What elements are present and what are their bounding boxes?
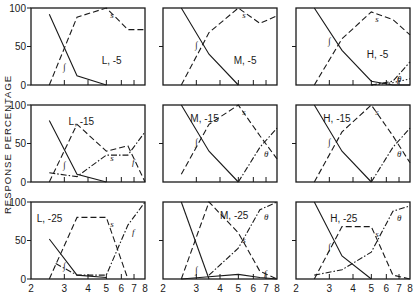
- x-tick-label: 8: [274, 283, 280, 294]
- series-line: [314, 206, 410, 275]
- panel-title: L, -5: [102, 55, 122, 66]
- series-label: θ: [397, 213, 402, 223]
- y-tick-label: 50: [15, 41, 27, 52]
- series-line: [371, 128, 410, 182]
- x-tick-label: 3: [194, 283, 200, 294]
- series-label: ∫: [194, 265, 199, 276]
- figure: RESPONSE PERCENTAGE 050100∫sL, -5∫sM, -5…: [0, 0, 416, 299]
- series-label: s: [110, 10, 114, 20]
- panel-h-25: 2345678∫sθH, -25: [292, 202, 413, 294]
- y-tick-label: 50: [15, 138, 27, 149]
- x-tick-label: 4: [85, 283, 91, 294]
- series-label: s: [375, 229, 379, 239]
- series-label: s: [375, 107, 379, 117]
- series-line: [371, 62, 410, 85]
- panel-title: M, -25: [220, 210, 249, 221]
- series-label: θ: [397, 149, 402, 159]
- x-tick-label: 5: [104, 283, 110, 294]
- panel-frame: [31, 8, 145, 85]
- series-label: s: [242, 10, 246, 20]
- series-line: [181, 274, 277, 279]
- panel-title: M, -15: [190, 113, 219, 124]
- series-line: [49, 14, 106, 85]
- y-tick-label: 0: [20, 177, 26, 188]
- series-label: ∫: [194, 40, 199, 51]
- panel-h-15: ∫sθH, -15: [292, 105, 410, 182]
- panel-m-5: ∫sM, -5: [159, 8, 277, 85]
- x-tick-label: 2: [28, 283, 34, 294]
- series-label: ∫: [62, 62, 67, 73]
- x-tick-label: 7: [263, 283, 269, 294]
- panel-title: L, -25: [37, 213, 63, 224]
- x-tick-label: 3: [62, 283, 68, 294]
- x-tick-label: 8: [407, 283, 413, 294]
- panel-frame: [163, 8, 277, 85]
- y-tick-label: 50: [15, 235, 27, 246]
- panel-m-25: 2345678∫sθfM, -25: [159, 202, 280, 294]
- series-line: [49, 239, 106, 278]
- series-label: θ: [264, 149, 269, 159]
- x-tick-label: 5: [369, 283, 375, 294]
- x-tick-label: 7: [131, 283, 137, 294]
- series-line: [49, 124, 145, 182]
- panel-title: L, -15: [69, 116, 95, 127]
- y-tick-label: 0: [20, 274, 26, 285]
- panel-l-25: 0501002345678∫sfL, -25: [9, 197, 148, 295]
- panel-l-5: 050100∫sL, -5: [9, 3, 145, 91]
- series-label: s: [110, 219, 114, 229]
- y-tick-label: 0: [20, 80, 26, 91]
- panel-title: H, -25: [330, 213, 358, 224]
- series-line: [181, 8, 238, 85]
- series-label: s: [375, 14, 379, 24]
- x-tick-label: 8: [142, 283, 148, 294]
- y-tick-label: 100: [9, 197, 26, 208]
- series-line: [314, 12, 410, 85]
- series-label: f: [132, 157, 136, 167]
- panel-frame: [163, 105, 277, 182]
- series-label: θ: [264, 212, 269, 222]
- x-tick-label: 4: [350, 283, 356, 294]
- panel-l-15: 050100∫sfL, -15: [9, 100, 145, 188]
- x-tick-label: 5: [236, 283, 242, 294]
- x-tick-label: 7: [396, 283, 402, 294]
- x-tick-label: 2: [160, 283, 166, 294]
- y-tick-label: 100: [9, 3, 26, 14]
- panel-frame: [296, 105, 410, 182]
- series-label: s: [242, 107, 246, 117]
- panel-title: M, -5: [234, 55, 257, 66]
- series-label: ∫: [62, 160, 67, 171]
- series-label: f: [264, 268, 268, 278]
- panel-frame: [296, 8, 410, 85]
- series-line: [238, 128, 277, 182]
- panel-m-15: ∫sθM, -15: [159, 105, 277, 182]
- series-label: ∫: [62, 261, 67, 272]
- y-axis-label: RESPONSE PERCENTAGE: [2, 75, 13, 214]
- y-tick-label: 100: [9, 100, 26, 111]
- panel-title: H, -5: [367, 49, 389, 60]
- x-tick-label: 6: [384, 283, 390, 294]
- series-label: ∫: [327, 36, 332, 47]
- x-tick-label: 3: [327, 283, 333, 294]
- series-label: ∫: [327, 137, 332, 148]
- series-label: f: [132, 227, 136, 237]
- series-line: [314, 8, 410, 85]
- series-line: [49, 217, 128, 279]
- x-tick-label: 6: [119, 283, 125, 294]
- x-tick-label: 6: [251, 283, 257, 294]
- panel-h-5: ∫sθfH, -5: [292, 8, 410, 85]
- x-tick-label: 4: [217, 283, 223, 294]
- series-line: [49, 120, 106, 182]
- x-tick-label: 2: [293, 283, 299, 294]
- panel-title: H, -15: [323, 113, 351, 124]
